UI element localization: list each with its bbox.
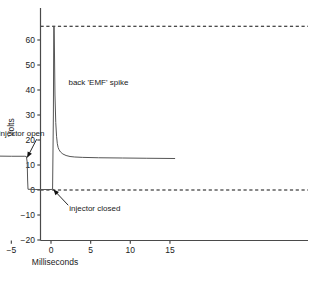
chart-container: −15−10−5051015 −20−100102030405060 injec… <box>0 0 316 284</box>
volts-vs-milliseconds-line-chart: −15−10−5051015 −20−100102030405060 injec… <box>0 0 316 284</box>
y-tick-label: −20 <box>21 235 36 245</box>
y-tick-label: 0 <box>30 185 35 195</box>
x-tick-label: 0 <box>49 245 54 255</box>
y-tick-label: 60 <box>26 35 36 45</box>
y-tick-label: 30 <box>26 110 36 120</box>
annotation-label-back-emf-spike: back 'EMF' spike <box>68 78 129 87</box>
x-axis-title: Milliseconds <box>32 257 78 267</box>
y-tick-label: 40 <box>26 85 36 95</box>
y-axis-title: Volts <box>6 118 16 136</box>
reference-lines-group <box>41 26 309 190</box>
y-axis-ticks: −20−100102030405060 <box>21 35 41 245</box>
x-tick-label: 5 <box>88 245 93 255</box>
x-tick-label: −5 <box>6 245 16 255</box>
x-tick-label: 15 <box>165 245 175 255</box>
y-tick-label: 50 <box>26 60 36 70</box>
annotation-label-injector-closed: injector closed <box>69 204 120 213</box>
annotations-group: injector openback 'EMF' spikeinjector cl… <box>0 78 129 213</box>
y-tick-label: −10 <box>21 210 36 220</box>
x-tick-label: 10 <box>126 245 136 255</box>
